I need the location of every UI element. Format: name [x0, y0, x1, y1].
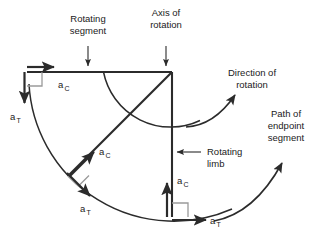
rotating-limb-line2: limb	[207, 158, 224, 169]
diagram-canvas: Rotating segment Axis of rotation Direct…	[0, 0, 316, 238]
vector-group-mid-diagonal	[67, 152, 94, 196]
path-of-endpoint-line3: segment	[268, 132, 305, 143]
tangential-symbol-top-left: a	[10, 111, 16, 122]
limb-segment-diagonal	[70, 72, 173, 175]
centripetal-subscript-bottom: C	[184, 181, 189, 188]
endpoint-path-arc	[29, 84, 232, 221]
centripetal-symbol-top-left: a	[58, 79, 64, 90]
path-of-endpoint-line1: Path of	[271, 108, 301, 119]
direction-of-rotation-line1: Direction of	[228, 67, 276, 78]
axis-of-rotation-line2: rotation	[150, 19, 182, 30]
rotating-segment-line1: Rotating	[70, 13, 105, 24]
label-centripetal-mid: a C	[99, 146, 111, 159]
centripetal-vector-mid	[70, 152, 94, 176]
rotating-segment-line2: segment	[70, 25, 107, 36]
direction-of-rotation-line2: rotation	[236, 79, 268, 90]
label-direction-of-rotation: Direction of rotation	[228, 67, 276, 90]
label-path-of-endpoint-segment: Path of endpoint segment	[268, 108, 305, 143]
centripetal-subscript-top-left: C	[65, 85, 70, 92]
direction-of-rotation-arrow	[186, 95, 235, 127]
path-of-endpoint-line2: endpoint	[268, 120, 305, 131]
right-angle-marker-bottom	[172, 203, 188, 217]
label-tangential-bottom: a T	[210, 215, 222, 228]
centripetal-symbol-bottom: a	[177, 175, 183, 186]
tangential-subscript-mid: T	[87, 209, 92, 216]
rotating-limb-segments	[27, 72, 172, 217]
label-rotating-segment: Rotating segment	[70, 13, 107, 36]
label-tangential-mid: a T	[80, 203, 92, 216]
label-rotating-limb: Rotating limb	[207, 146, 242, 169]
centripetal-subscript-mid: C	[106, 152, 111, 159]
label-axis-of-rotation: Axis of rotation	[150, 7, 182, 30]
tangential-symbol-mid: a	[80, 203, 86, 214]
inner-sweep-arc	[104, 72, 201, 127]
rotating-limb-line1: Rotating	[207, 146, 242, 157]
centripetal-symbol-mid: a	[99, 146, 105, 157]
axis-of-rotation-line1: Axis of	[152, 7, 181, 18]
label-centripetal-top-left: a C	[58, 79, 70, 92]
label-centripetal-bottom: a C	[177, 175, 189, 188]
rotation-acceleration-diagram: Rotating segment Axis of rotation Direct…	[0, 0, 316, 238]
label-tangential-top-left: a T	[10, 111, 22, 124]
tangential-subscript-top-left: T	[17, 117, 22, 124]
tangential-subscript-bottom: T	[217, 221, 222, 228]
tangential-symbol-bottom: a	[210, 215, 216, 226]
right-angle-marker-top-left	[27, 72, 42, 86]
tangential-vector-mid	[67, 173, 90, 196]
